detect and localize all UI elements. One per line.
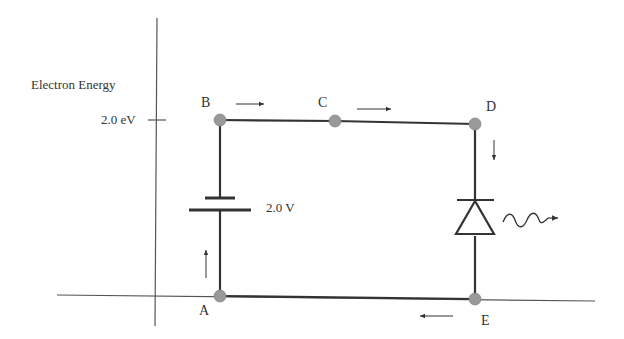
node-c bbox=[329, 115, 341, 127]
light-emission-wave-icon bbox=[503, 213, 548, 227]
node-label-d: D bbox=[486, 99, 496, 114]
node-label-b: B bbox=[201, 95, 210, 110]
battery-voltage-label: 2.0 V bbox=[266, 200, 295, 215]
circuit-nodes bbox=[214, 114, 481, 305]
node-label-c: C bbox=[318, 95, 327, 110]
circuit-wires bbox=[220, 120, 475, 299]
node-e bbox=[469, 293, 481, 305]
energy-axis-vertical bbox=[155, 18, 157, 326]
node-a bbox=[214, 290, 226, 302]
node-label-e: E bbox=[481, 313, 490, 328]
node-b bbox=[214, 114, 226, 126]
circuit-energy-diagram: Electron Energy 2.0 eV 2.0 V B C D bbox=[0, 0, 624, 339]
battery-icon bbox=[189, 198, 251, 210]
axis-label-electron-energy: Electron Energy bbox=[31, 77, 116, 92]
led-diode-icon bbox=[456, 200, 494, 234]
node-d bbox=[469, 118, 481, 130]
node-label-a: A bbox=[199, 303, 210, 318]
tick-label-2ev: 2.0 eV bbox=[101, 112, 136, 127]
